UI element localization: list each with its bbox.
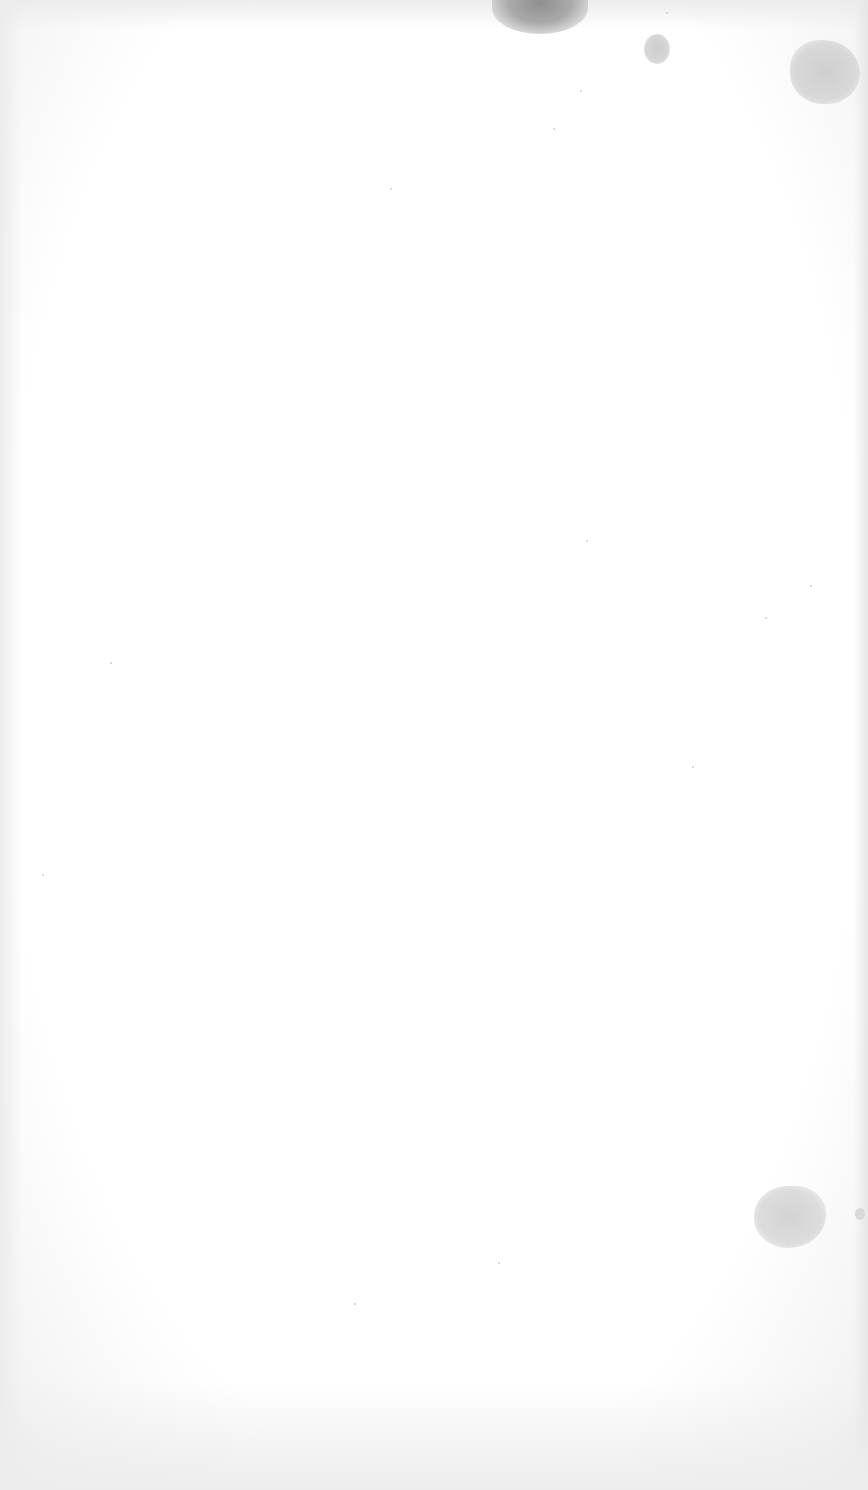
speck xyxy=(110,662,112,664)
stain-lower-right xyxy=(754,1186,826,1248)
scanned-page xyxy=(0,0,868,1490)
speck xyxy=(498,1262,500,1264)
speck xyxy=(580,90,582,92)
speck xyxy=(666,12,668,14)
page-edge-shadow-right xyxy=(854,0,868,1490)
page-edge-shadow-bottom xyxy=(0,1380,868,1490)
speck xyxy=(354,1303,356,1305)
stain-lower-right-tiny xyxy=(855,1208,865,1220)
page-edge-shadow-top xyxy=(0,0,868,30)
stain-top-small xyxy=(644,34,670,64)
stain-top-right xyxy=(790,40,860,104)
speck xyxy=(42,874,44,876)
speck xyxy=(586,540,588,542)
page-edge-shadow-left xyxy=(0,0,22,1490)
speck xyxy=(692,766,694,768)
speck xyxy=(810,585,812,587)
speck xyxy=(765,617,767,619)
speck xyxy=(390,188,392,190)
speck xyxy=(553,128,555,130)
